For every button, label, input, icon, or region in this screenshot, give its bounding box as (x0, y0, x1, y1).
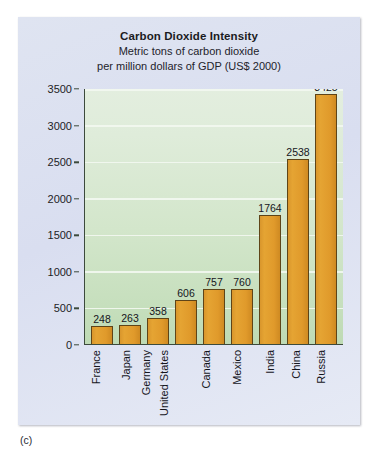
y-tick-mark (74, 308, 79, 309)
bar-value-label: 757 (205, 276, 223, 288)
bar-value-label: 2538 (286, 146, 309, 158)
bar: 606 (175, 300, 197, 344)
bar-slot: 358 (144, 89, 172, 344)
y-tick-mark (74, 161, 79, 162)
y-tick-label: 1000 (48, 266, 72, 278)
x-axis-slot: China (284, 345, 312, 427)
chart-title-block: Carbon Dioxide Intensity Metric tons of … (18, 29, 360, 73)
y-tick-label: 0 (66, 339, 72, 351)
bar: 263 (119, 325, 141, 344)
bar: 1764 (259, 215, 281, 344)
x-tick-label: Germany (141, 350, 153, 395)
bar-slot: 263 (116, 89, 144, 344)
y-tick-mark (74, 198, 79, 199)
figure-caption: (c) (20, 434, 32, 446)
bar-value-label: 1764 (258, 202, 281, 214)
x-tick-label: Canada (200, 350, 212, 389)
x-axis-slot: Japan (115, 345, 143, 427)
y-tick-label: 3000 (48, 120, 72, 132)
plot-area: 248263358606757760176425383425 (84, 89, 343, 345)
bar: 248 (91, 326, 113, 344)
x-axis-slot: United States (171, 345, 199, 427)
y-tick-mark (74, 88, 79, 89)
bar: 760 (231, 289, 253, 344)
x-axis-slot: India (256, 345, 284, 427)
x-axis-slot: Mexico (228, 345, 256, 427)
y-axis: 0500100015002000250030003500 (22, 89, 78, 345)
x-axis-slot: Russia (312, 345, 340, 427)
y-tick-label: 2000 (48, 193, 72, 205)
bar-slot: 606 (172, 89, 200, 344)
bar: 757 (203, 289, 225, 344)
page-title: Carbon Dioxide Intensity (18, 29, 360, 44)
chart-subtitle-line-2: per million dollars of GDP (US$ 2000) (18, 59, 360, 74)
y-tick-mark (74, 235, 79, 236)
bar-slot: 3425 (312, 89, 340, 344)
bar-value-label: 248 (93, 313, 111, 325)
bar-value-label: 3425 (314, 89, 337, 93)
x-axis-slot: Canada (199, 345, 227, 427)
plot-frame: 0500100015002000250030003500 24826335860… (84, 89, 343, 345)
figure-panel: Carbon Dioxide Intensity Metric tons of … (18, 17, 360, 425)
y-tick-label: 500 (54, 302, 72, 314)
bar: 358 (147, 318, 169, 344)
x-tick-label: France (90, 350, 102, 384)
y-tick-label: 2500 (48, 156, 72, 168)
bar-value-label: 606 (177, 287, 195, 299)
bar-value-label: 263 (121, 312, 139, 324)
bar-slot: 248 (88, 89, 116, 344)
y-tick-mark (74, 344, 79, 345)
x-axis-slot: France (87, 345, 115, 427)
bar-slot: 1764 (256, 89, 284, 344)
bar-slot: 2538 (284, 89, 312, 344)
bar-value-label: 760 (233, 276, 251, 288)
bar-slot: 760 (228, 89, 256, 344)
bar-value-label: 358 (149, 305, 167, 317)
bar: 3425 (315, 94, 337, 344)
x-tick-label: Japan (120, 350, 132, 380)
x-tick-label: United States (158, 350, 170, 416)
bar: 2538 (287, 159, 309, 344)
x-tick-label: China (289, 350, 301, 379)
x-axis: FranceJapanGermanyUnited StatesCanadaMex… (84, 345, 343, 427)
y-tick-mark (74, 125, 79, 126)
x-tick-label: India (264, 350, 276, 374)
bars-layer: 248263358606757760176425383425 (85, 89, 343, 344)
y-tick-mark (74, 271, 79, 272)
x-tick-label: Mexico (230, 350, 242, 385)
bar-slot: 757 (200, 89, 228, 344)
x-tick-label: Russia (315, 350, 327, 384)
y-tick-label: 3500 (48, 83, 72, 95)
chart-subtitle-line-1: Metric tons of carbon dioxide (18, 44, 360, 59)
y-tick-label: 1500 (48, 229, 72, 241)
